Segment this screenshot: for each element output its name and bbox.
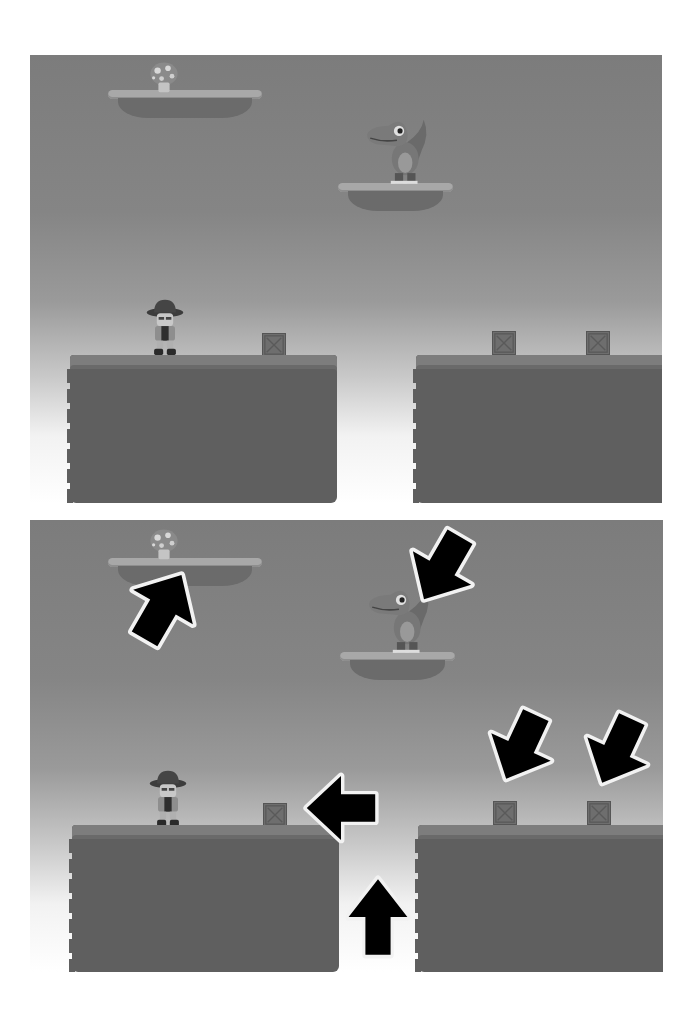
crate-right-2: [587, 801, 611, 825]
floating-platform-right: [340, 652, 455, 682]
crate-right-1: [493, 801, 517, 825]
bottom-game-scene: [30, 520, 663, 972]
arrow-to-left-crate-icon: [303, 767, 379, 849]
player-character-icon: [148, 768, 188, 828]
top-game-scene: [30, 55, 662, 503]
dinosaur-enemy-icon: [362, 117, 434, 185]
arrow-to-pit-gap-icon: [343, 875, 413, 959]
player-character-icon: [145, 297, 185, 357]
crate-right-1: [492, 331, 516, 355]
ground-right: [416, 355, 662, 503]
floating-platform-left: [108, 90, 262, 120]
crate-left: [262, 333, 286, 357]
crate-left: [263, 803, 287, 827]
ground-right: [418, 825, 663, 972]
ground-left: [72, 825, 339, 972]
ground-left: [70, 355, 337, 503]
mushroom-icon: [148, 61, 180, 93]
floating-platform-right: [338, 183, 453, 213]
crate-right-2: [586, 331, 610, 355]
